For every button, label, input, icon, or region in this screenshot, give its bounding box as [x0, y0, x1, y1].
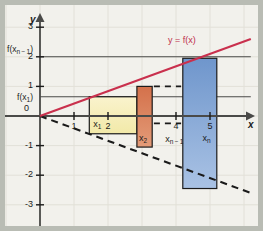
f-x-1-label: f(x1): [17, 93, 33, 102]
function-label: y = f(x): [168, 36, 196, 45]
origin-label: 0: [24, 104, 29, 113]
coordinate-plot: [5, 5, 258, 226]
x-tick-label: 4: [173, 122, 178, 131]
f-x-n-minus-1-label: f(xn − 1): [7, 45, 33, 54]
x-n-sublabel: xn: [203, 134, 211, 143]
x-axis-label: x: [248, 120, 254, 130]
figure-frame: yx0321-1-2-31245f(xn − 1)f(x1)y = f(x)x1…: [0, 0, 263, 231]
x-1-sublabel: x1: [93, 120, 101, 129]
plot-area: yx0321-1-2-31245f(xn − 1)f(x1)y = f(x)x1…: [5, 5, 258, 226]
y-tick-label: -1: [25, 141, 33, 150]
y-tick-label: 3: [28, 22, 33, 31]
x-tick-label: 5: [207, 122, 212, 131]
x-tick-label: 1: [71, 122, 76, 131]
y-tick-label: -3: [25, 200, 33, 209]
y-tick-label: 1: [28, 81, 33, 90]
y-tick-label: -2: [25, 170, 33, 179]
x-tick-label: 2: [105, 122, 110, 131]
x-n-minus-1-sublabel: xn − 1: [165, 135, 183, 144]
x-2-sublabel: x2: [139, 134, 147, 143]
